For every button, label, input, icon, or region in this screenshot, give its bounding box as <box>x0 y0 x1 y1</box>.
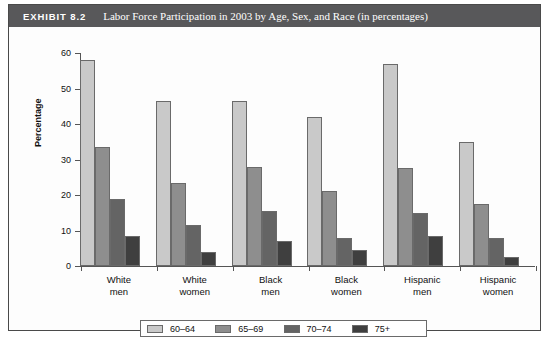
exhibit-title-text: Labor Force Participation in 2003 by Age… <box>103 10 428 22</box>
legend-item[interactable]: 65–69 <box>215 324 283 334</box>
bar <box>110 199 125 266</box>
y-axis-tick-label: 20 <box>31 190 71 200</box>
bar <box>352 250 367 266</box>
y-axis-tick-label: 0 <box>31 261 71 271</box>
legend-item[interactable]: 75+ <box>352 324 420 334</box>
bar <box>489 238 504 266</box>
bar <box>504 257 519 266</box>
bar <box>413 213 428 266</box>
x-axis-group-label: Hispanicwomen <box>443 274 551 298</box>
y-axis-tick-label: 30 <box>31 155 71 165</box>
bar <box>247 167 262 266</box>
legend-label: 70–74 <box>307 324 332 334</box>
x-axis-tick <box>309 266 310 271</box>
bar-group <box>460 53 536 266</box>
bar <box>186 225 201 266</box>
bar <box>125 236 140 266</box>
legend-item[interactable]: 70–74 <box>284 324 352 334</box>
bar <box>201 252 216 266</box>
bar-group <box>157 53 233 266</box>
bar <box>383 64 398 266</box>
y-axis-tick-label: 60 <box>31 48 71 58</box>
bar <box>277 241 292 266</box>
x-axis-label-line: Hispanic <box>443 274 551 286</box>
x-axis-tick <box>384 266 385 271</box>
bar <box>307 117 322 266</box>
legend-swatch <box>352 325 368 333</box>
bar <box>398 168 413 266</box>
legend-swatch <box>284 325 300 333</box>
exhibit-panel: EXHIBIT 8.2 Labor Force Participation in… <box>8 4 541 331</box>
x-axis-tick <box>81 266 82 271</box>
x-axis-tick <box>536 266 537 271</box>
x-axis-tick <box>460 266 461 271</box>
bar-group <box>309 53 385 266</box>
legend-swatch <box>215 325 231 333</box>
bar-group <box>384 53 460 266</box>
legend-swatch <box>147 325 163 333</box>
exhibit-title-bar: EXHIBIT 8.2 Labor Force Participation in… <box>9 5 540 27</box>
x-axis-tick <box>233 266 234 271</box>
bars-container <box>81 53 536 266</box>
bar <box>474 204 489 266</box>
y-axis-tick-label: 40 <box>31 119 71 129</box>
y-axis-tick-label: 50 <box>31 84 71 94</box>
bar-group <box>81 53 157 266</box>
legend-item[interactable]: 60–64 <box>147 324 215 334</box>
bar <box>171 183 186 266</box>
bar <box>337 238 352 266</box>
bar <box>80 60 95 266</box>
bar <box>459 142 474 266</box>
y-axis-tick-label: 10 <box>31 226 71 236</box>
legend-label: 60–64 <box>170 324 195 334</box>
exhibit-number-label: EXHIBIT 8.2 <box>23 11 86 22</box>
legend-label: 75+ <box>375 324 390 334</box>
bar <box>262 211 277 266</box>
x-axis-tick <box>157 266 158 271</box>
legend-label: 65–69 <box>238 324 263 334</box>
bar <box>95 147 110 266</box>
chart-legend: 60–6465–6970–7475+ <box>140 320 427 337</box>
x-axis-label-line: women <box>443 286 551 298</box>
bar <box>322 191 337 266</box>
bar <box>232 101 247 266</box>
bar <box>156 101 171 266</box>
x-axis-line <box>80 266 535 267</box>
y-axis-title: Percentage <box>33 67 43 147</box>
bar-group <box>233 53 309 266</box>
bar <box>428 236 443 266</box>
chart-plot-area: Percentage 0102030405060 WhitemenWhitewo… <box>9 27 540 330</box>
